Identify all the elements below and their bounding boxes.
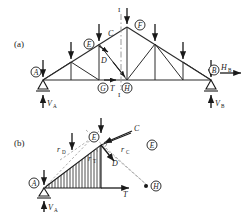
member-label-D: D xyxy=(100,56,107,65)
lever-arm-rD-sub: D xyxy=(62,149,66,155)
force-label-C: C xyxy=(134,124,140,133)
node-B-marker: B xyxy=(209,65,219,75)
node-E-marker-b: E xyxy=(89,132,99,142)
node-E-b-label: E xyxy=(91,133,97,142)
node-F-marker: F xyxy=(135,20,145,30)
reaction-HB-sub: B xyxy=(228,67,232,73)
force-label-D: D xyxy=(111,159,118,168)
reaction-VB-sub: B xyxy=(221,103,225,109)
engineering-figure: (a) xyxy=(0,0,246,212)
node-A-marker: A xyxy=(31,67,41,77)
lever-arm-rC-sub: C xyxy=(126,149,130,155)
reaction-VA-sub: A xyxy=(53,103,57,109)
node-G-marker: G xyxy=(98,83,108,93)
figure-root: (a) xyxy=(0,0,246,212)
node-A-label: A xyxy=(33,68,39,77)
panel-a-tag: (a) xyxy=(14,39,24,49)
node-H-label: H xyxy=(123,84,130,93)
node-H-b-label: H xyxy=(152,182,159,191)
reaction-VA-b-sub: A xyxy=(54,207,58,212)
node-E-label: E xyxy=(86,40,92,49)
node-H-marker: H xyxy=(122,83,132,93)
member-label-T: T xyxy=(110,84,115,93)
node-E2-marker-b: E xyxy=(147,140,157,150)
member-label-C: C xyxy=(108,29,114,38)
force-label-T: T xyxy=(123,190,128,199)
node-A-marker-b: A xyxy=(29,178,39,188)
panel-b-tag: (b) xyxy=(14,138,25,148)
node-E2-b-label: E xyxy=(149,141,155,150)
node-E-marker: E xyxy=(84,39,94,49)
node-B-label: B xyxy=(212,66,217,75)
node-F-label: F xyxy=(137,21,143,30)
node-G-label: G xyxy=(100,84,106,93)
node-A-b-label: A xyxy=(31,179,37,188)
